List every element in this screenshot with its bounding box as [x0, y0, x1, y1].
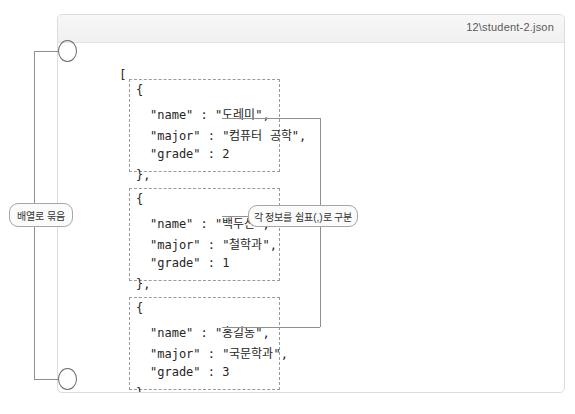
object-3-name-line: "name" : "홍길동", — [150, 323, 270, 340]
object-1-grade-line: "grade" : 2 — [150, 147, 229, 161]
object-3-close-brace: } — [136, 386, 143, 392]
callout-array-label: 배열로 묶음 — [9, 203, 73, 227]
callout-array-text: 배열로 묶음 — [17, 208, 65, 223]
array-open-bracket: [ — [119, 67, 127, 82]
callout-comma-label: 각 정보를 쉼표(,)로 구분 — [248, 205, 358, 227]
circle-highlight-open-bracket-icon — [58, 40, 77, 62]
connector-comma-bottom — [222, 327, 320, 328]
object-2-close-brace: }, — [136, 277, 150, 291]
connector-comma-top — [222, 118, 320, 119]
circle-highlight-close-bracket-icon — [58, 368, 77, 390]
object-3-major-line: "major" : "국문학과", — [150, 344, 288, 361]
connector-array-bottom — [34, 379, 58, 380]
object-2-major-line: "major" : "철학과", — [150, 235, 277, 252]
window-titlebar: 12\student-2.json — [58, 15, 564, 43]
object-1-major-line: "major" : "컴퓨터 공학", — [150, 126, 306, 143]
callout-comma-text: 각 정보를 쉼표(,)로 구분 — [254, 209, 353, 224]
object-1-name-line: "name" : "도레미", — [150, 105, 270, 122]
connector-array-top — [34, 51, 58, 52]
object-3-open-brace: { — [136, 301, 143, 315]
window-title-filename: 12\student-2.json — [466, 21, 554, 33]
object-3-grade-line: "grade" : 3 — [150, 365, 229, 379]
object-1-close-brace: }, — [136, 168, 150, 182]
editor-window: 12\student-2.json [ { "name" : "도레미", "m… — [57, 14, 565, 393]
object-1-open-brace: { — [136, 83, 143, 97]
object-2-grade-line: "grade" : 1 — [150, 256, 229, 270]
object-2-open-brace: { — [136, 192, 143, 206]
screenshot-root: 12\student-2.json [ { "name" : "도레미", "m… — [0, 0, 575, 414]
